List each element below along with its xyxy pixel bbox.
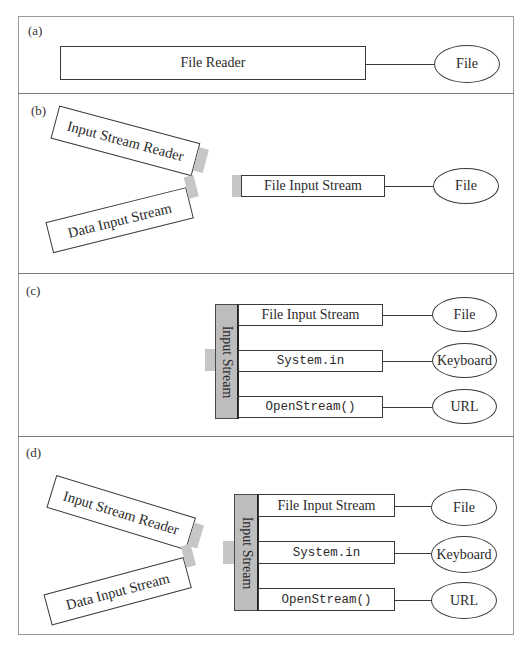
divider-b-c: [18, 273, 514, 274]
connector-line: [395, 553, 431, 554]
input-stream-label: Input Stream: [239, 516, 255, 589]
openstream-box: OpenStream(): [238, 396, 383, 418]
system-in-box: System.in: [238, 350, 383, 372]
url-source-ellipse: URL: [432, 389, 497, 424]
panel-label: (c): [26, 283, 40, 299]
panel-label: (b): [31, 103, 46, 119]
connector-line: [385, 186, 433, 187]
connector-line: [395, 506, 431, 507]
panel-label: (d): [26, 445, 41, 461]
input-stream-bar: Input Stream: [234, 494, 259, 611]
connector-line: [366, 64, 434, 65]
keyboard-source-ellipse: Keyboard: [432, 343, 497, 378]
connector-line: [383, 315, 432, 316]
openstream-box: OpenStream(): [258, 588, 395, 611]
file-input-stream-box: File Input Stream: [241, 175, 385, 197]
divider-c-d: [18, 436, 514, 437]
file-source-ellipse: File: [432, 297, 497, 332]
divider-a-b: [18, 93, 514, 94]
input-stream-bar: Input Stream: [215, 304, 239, 419]
system-in-box: System.in: [258, 541, 395, 564]
url-source-ellipse: URL: [431, 582, 497, 619]
connector-line: [383, 361, 432, 362]
connector-tab: [232, 175, 241, 197]
input-stream-label: Input Stream: [219, 325, 235, 398]
file-source-ellipse: File: [433, 168, 499, 204]
file-input-stream-box: File Input Stream: [258, 494, 395, 517]
panel-label: (a): [28, 23, 42, 39]
keyboard-source-ellipse: Keyboard: [431, 536, 497, 573]
file-input-stream-box: File Input Stream: [238, 304, 383, 326]
connector-line: [383, 407, 432, 408]
file-reader-box: File Reader: [60, 46, 366, 80]
file-source-ellipse: File: [431, 489, 497, 526]
file-source-ellipse: File: [434, 45, 500, 83]
connector-line: [395, 600, 431, 601]
